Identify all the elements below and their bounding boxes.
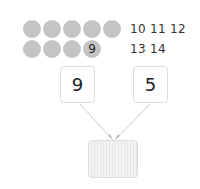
answer-box[interactable] <box>88 140 138 178</box>
